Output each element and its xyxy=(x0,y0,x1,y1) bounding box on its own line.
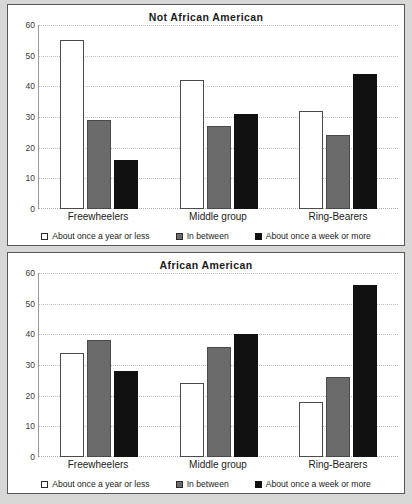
bar xyxy=(299,111,323,209)
bar xyxy=(60,353,84,457)
x-axis-labels: FreewheelersMiddle groupRing-Bearers xyxy=(38,209,398,226)
legend-label: About once a year or less xyxy=(52,231,149,241)
chart-page: Not African American 0102030405060 Freew… xyxy=(0,0,412,504)
y-axis-tick-label: 20 xyxy=(26,391,35,401)
plot-area: 0102030405060 xyxy=(8,273,398,457)
bar xyxy=(207,347,231,457)
x-axis-labels: FreewheelersMiddle groupRing-Bearers xyxy=(38,457,398,474)
bar-group xyxy=(159,273,279,457)
legend-swatch-icon xyxy=(255,481,262,488)
y-axis-tick-label: 0 xyxy=(30,452,35,462)
bar-group xyxy=(159,25,279,209)
y-axis-tick-label: 20 xyxy=(26,143,35,153)
y-axis-tick-label: 0 xyxy=(30,204,35,214)
legend-item: About once a year or less xyxy=(41,231,149,241)
chart-title: Not African American xyxy=(8,5,404,25)
bar xyxy=(353,74,377,209)
bar xyxy=(114,371,138,457)
legend-swatch-icon xyxy=(41,233,48,240)
legend-swatch-icon xyxy=(255,233,262,240)
bar xyxy=(234,334,258,457)
x-axis-category-label: Freewheelers xyxy=(38,457,158,474)
x-axis-category-label: Middle group xyxy=(158,457,278,474)
bar xyxy=(234,114,258,209)
y-axis-tick-label: 30 xyxy=(26,112,35,122)
y-axis-tick-label: 40 xyxy=(26,81,35,91)
grid-area xyxy=(38,25,398,209)
bar xyxy=(180,383,204,457)
y-axis: 0102030405060 xyxy=(8,273,38,457)
y-axis-tick-label: 60 xyxy=(26,20,35,30)
bar xyxy=(326,135,350,209)
y-axis-tick-label: 40 xyxy=(26,329,35,339)
legend-swatch-icon xyxy=(41,481,48,488)
x-axis-category-label: Ring-Bearers xyxy=(278,457,398,474)
bar-group xyxy=(39,273,159,457)
y-axis-tick-label: 10 xyxy=(26,173,35,183)
y-axis: 0102030405060 xyxy=(8,25,38,209)
y-axis-tick-label: 50 xyxy=(26,51,35,61)
bar xyxy=(207,126,231,209)
y-axis-tick-label: 60 xyxy=(26,268,35,278)
bar xyxy=(353,285,377,457)
grid-area xyxy=(38,273,398,457)
bar xyxy=(60,40,84,209)
chart-panel-african-american: African American 0102030405060 Freewheel… xyxy=(7,252,405,494)
legend-item: In between xyxy=(176,231,229,241)
legend-item: About once a week or more xyxy=(255,479,371,489)
legend-label: About once a year or less xyxy=(52,479,149,489)
x-axis-category-label: Middle group xyxy=(158,209,278,226)
legend-label: In between xyxy=(187,231,229,241)
legend-label: In between xyxy=(187,479,229,489)
chart-legend: About once a year or lessIn betweenAbout… xyxy=(8,226,404,246)
y-axis-tick-label: 30 xyxy=(26,360,35,370)
legend-label: About once a week or more xyxy=(266,231,371,241)
bar-group xyxy=(39,25,159,209)
bar xyxy=(87,120,111,209)
x-axis-category-label: Ring-Bearers xyxy=(278,209,398,226)
legend-item: About once a week or more xyxy=(255,231,371,241)
bar xyxy=(87,340,111,457)
legend-label: About once a week or more xyxy=(266,479,371,489)
bar-group xyxy=(278,25,398,209)
bar xyxy=(299,402,323,457)
y-axis-tick-label: 50 xyxy=(26,299,35,309)
bar-groups xyxy=(39,25,398,209)
legend-swatch-icon xyxy=(176,481,183,488)
chart-legend: About once a year or lessIn betweenAbout… xyxy=(8,474,404,494)
bar-group xyxy=(278,273,398,457)
x-axis-category-label: Freewheelers xyxy=(38,209,158,226)
bar xyxy=(180,80,204,209)
legend-item: About once a year or less xyxy=(41,479,149,489)
chart-panel-not-african-american: Not African American 0102030405060 Freew… xyxy=(7,4,405,246)
legend-item: In between xyxy=(176,479,229,489)
y-axis-tick-label: 10 xyxy=(26,421,35,431)
legend-swatch-icon xyxy=(176,233,183,240)
bar-groups xyxy=(39,273,398,457)
bar xyxy=(114,160,138,209)
bar xyxy=(326,377,350,457)
chart-title: African American xyxy=(8,253,404,273)
plot-area: 0102030405060 xyxy=(8,25,398,209)
